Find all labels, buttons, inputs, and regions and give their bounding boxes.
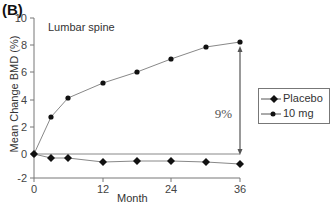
legend-label: Placebo xyxy=(283,92,323,104)
x-tick-12: 12 xyxy=(97,183,109,195)
x-axis-label: Month xyxy=(117,192,148,204)
series-placebo xyxy=(30,150,244,168)
x-tick-0: 0 xyxy=(31,183,37,195)
y-tick-0: 0 xyxy=(21,148,27,160)
y-tick-neg2: -2 xyxy=(17,172,27,184)
circle-marker-icon xyxy=(261,109,281,119)
y-tick-6: 6 xyxy=(21,66,27,78)
y-axis: 10 8 6 4 2 0 -2 xyxy=(15,12,34,184)
legend: Placebo 10 mg xyxy=(258,88,330,124)
y-tick-2: 2 xyxy=(21,121,27,133)
diamond-marker-icon xyxy=(261,94,281,104)
legend-label: 10 mg xyxy=(283,107,314,119)
difference-arrow xyxy=(238,46,243,155)
x-tick-24: 24 xyxy=(165,183,177,195)
x-tick-36: 36 xyxy=(234,183,246,195)
legend-item-placebo: Placebo xyxy=(259,92,329,106)
difference-annotation: 9% xyxy=(215,106,233,121)
y-tick-10: 10 xyxy=(15,12,27,24)
y-tick-4: 4 xyxy=(21,94,27,106)
series-10mg xyxy=(31,39,242,156)
y-tick-8: 8 xyxy=(21,39,27,51)
legend-item-10mg: 10 mg xyxy=(259,107,329,121)
chart-title: Lumbar spine xyxy=(48,21,115,33)
